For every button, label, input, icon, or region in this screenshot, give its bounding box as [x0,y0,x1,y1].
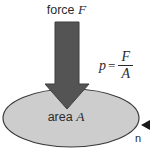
area-label-symbol: A [76,109,84,124]
formula-variable: p [99,59,106,73]
force-label-symbol: F [78,2,86,17]
formula-equals: = [108,59,115,72]
callout-left-triangle-icon [141,120,150,130]
force-label: force F [0,3,133,17]
pressure-formula: p = F A [99,50,133,81]
diagram-stage: force F area A p = F A n [0,0,153,149]
diagram-canvas: force F area A p = F A n [0,0,153,149]
area-label: area A [0,110,132,124]
formula-fraction: F A [118,50,133,81]
callout-text: n [135,133,153,147]
force-label-text: force [47,3,78,17]
formula-numerator: F [120,50,133,65]
area-label-text: area [48,110,77,124]
formula-denominator: A [120,66,133,81]
